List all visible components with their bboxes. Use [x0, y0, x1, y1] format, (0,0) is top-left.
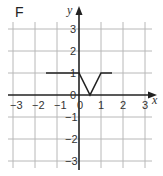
y-axis-arrow-icon — [76, 6, 83, 15]
y-axis-label: y — [66, 3, 73, 17]
y-tick-label: −3 — [65, 155, 78, 167]
x-tick-label: 3 — [142, 99, 148, 111]
y-tick-label: 3 — [70, 23, 76, 35]
y-tick-label: 2 — [70, 45, 76, 57]
axes — [8, 6, 157, 170]
x-tick-label: 1 — [98, 99, 104, 111]
panel-label: F — [15, 4, 24, 20]
x-axis-label: x — [151, 93, 158, 107]
x-tick-label: −2 — [32, 99, 45, 111]
x-tick-label: −1 — [54, 99, 67, 111]
function-graph: −3−2−101233210−1−2−3 F x y — [0, 0, 163, 176]
x-tick-label: −3 — [10, 99, 23, 111]
x-tick-label: 0 — [77, 99, 83, 111]
x-tick-label: 2 — [120, 99, 126, 111]
y-tick-label: −2 — [65, 133, 78, 145]
y-tick-label: −1 — [65, 111, 78, 123]
y-tick-label: 0 — [70, 89, 76, 101]
